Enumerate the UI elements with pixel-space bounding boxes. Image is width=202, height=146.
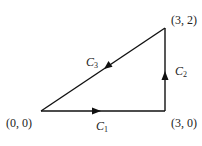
- arrow-down-left-icon: [104, 61, 113, 69]
- curve-subscript: 3: [94, 61, 98, 70]
- curve-name: C: [86, 55, 94, 69]
- curve-subscript: 1: [104, 125, 108, 134]
- vertex-label-origin: (0, 0): [6, 117, 32, 129]
- curve-label-c3: C3: [86, 56, 98, 70]
- curve-name: C: [175, 64, 183, 78]
- curve-label-c2: C2: [175, 65, 187, 79]
- curve-name: C: [96, 119, 104, 133]
- curve-label-c1: C1: [96, 120, 108, 134]
- vertex-label-bottom-right: (3, 0): [171, 117, 197, 129]
- curve-c3-segment: [41, 28, 165, 111]
- arrow-up-icon: [162, 71, 169, 80]
- curve-subscript: 2: [183, 70, 187, 79]
- vertex-label-top-right: (3, 2): [171, 14, 197, 26]
- arrow-right-icon: [92, 108, 101, 115]
